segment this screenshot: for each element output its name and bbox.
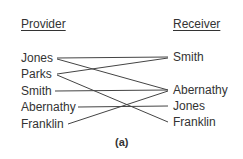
provider-item: Abernathy <box>21 100 76 114</box>
line-smith-abernathy <box>55 90 168 91</box>
provider-item: Franklin <box>21 117 64 131</box>
line-jones-abernathy <box>57 59 168 90</box>
line-parks-franklin <box>57 75 168 122</box>
provider-item: Smith <box>21 84 52 98</box>
provider-header: Provider <box>21 17 66 31</box>
receiver-item: Smith <box>173 50 204 64</box>
line-parks-smith <box>57 58 168 74</box>
provider-item: Jones <box>21 51 53 65</box>
receiver-item: Franklin <box>173 115 216 129</box>
receiver-item: Abernathy <box>173 83 228 97</box>
line-jones-smith <box>57 57 168 58</box>
line-franklin-abernathy <box>68 91 168 124</box>
receiver-item: Jones <box>173 99 205 113</box>
figure-caption: (a) <box>115 135 128 149</box>
provider-item: Parks <box>21 67 52 81</box>
receiver-header: Receiver <box>173 17 220 31</box>
